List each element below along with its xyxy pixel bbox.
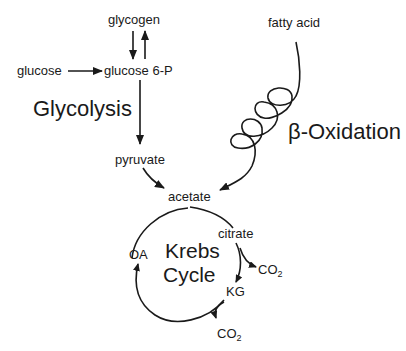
metabolism-diagram: glycogen glucose glucose 6-P Glycolysis … [0, 0, 406, 351]
node-co2-kg: CO2 [217, 327, 242, 343]
node-pyruvate: pyruvate [115, 153, 165, 166]
diagram-arrows [0, 0, 406, 351]
node-co2-citrate: CO2 [258, 263, 283, 279]
label-beta-oxidation: β-Oxidation [288, 121, 401, 143]
coil-fatty-acid-to-acetate [220, 42, 300, 190]
label-glycolysis: Glycolysis [33, 98, 132, 120]
node-fatty-acid: fatty acid [268, 16, 320, 29]
arc-kg-to-co2 [215, 302, 224, 318]
arrow-pyruvate-to-acetate [143, 168, 164, 188]
node-acetate: acetate [168, 190, 211, 203]
label-krebs: Krebs [165, 240, 220, 261]
node-glycogen: glycogen [108, 13, 160, 26]
node-kg: KG [226, 285, 245, 298]
node-glucose: glucose [17, 64, 62, 77]
arc-acetate-to-citrate [190, 207, 233, 228]
label-cycle: Cycle [163, 264, 216, 285]
node-citrate: citrate [218, 227, 253, 240]
node-glucose-6p: glucose 6-P [104, 64, 173, 77]
node-oa: OA [129, 248, 148, 261]
arc-citrate-to-co2 [240, 248, 256, 267]
